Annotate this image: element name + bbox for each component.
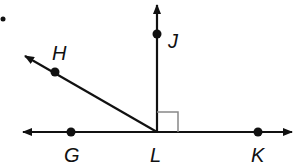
label-l: L	[150, 144, 161, 163]
label-h: H	[52, 42, 67, 64]
geometry-diagram: H J G L K	[0, 0, 298, 163]
ray-lh	[25, 56, 157, 132]
point-h	[51, 68, 60, 77]
point-g	[67, 128, 76, 137]
label-k: K	[251, 144, 266, 163]
point-j	[153, 30, 162, 39]
point-k	[254, 128, 263, 137]
label-j: J	[167, 30, 179, 52]
right-angle-marker	[157, 112, 178, 132]
label-g: G	[64, 144, 80, 163]
list-bullet	[1, 17, 6, 22]
